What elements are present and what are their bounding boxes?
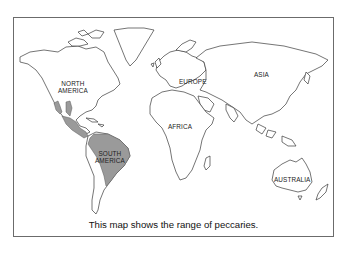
- label-south-america-line1: SOUTH: [95, 150, 125, 157]
- australia-landmass: [272, 158, 312, 192]
- label-south-america: SOUTH AMERICA: [95, 150, 125, 164]
- tasmania: [298, 196, 302, 200]
- caribbean-islands: [86, 118, 104, 127]
- arctic-islands: [68, 30, 104, 46]
- southeast-asia-islands: [256, 124, 296, 146]
- label-north-america-line2: AMERICA: [58, 87, 88, 94]
- label-asia: ASIA: [254, 71, 269, 78]
- label-north-america: NORTH AMERICA: [58, 80, 88, 94]
- madagascar: [204, 156, 210, 170]
- label-australia: AUSTRALIA: [274, 176, 310, 183]
- scandinavia-landmass: [176, 40, 196, 52]
- new-zealand: [316, 184, 328, 200]
- label-africa: AFRICA: [168, 123, 192, 130]
- label-europe: EUROPE: [179, 78, 207, 85]
- label-south-america-line2: AMERICA: [95, 157, 125, 164]
- map-caption: This map shows the range of peccaries.: [13, 219, 334, 230]
- label-north-america-line1: NORTH: [58, 80, 88, 87]
- greenland-landmass: [114, 28, 154, 66]
